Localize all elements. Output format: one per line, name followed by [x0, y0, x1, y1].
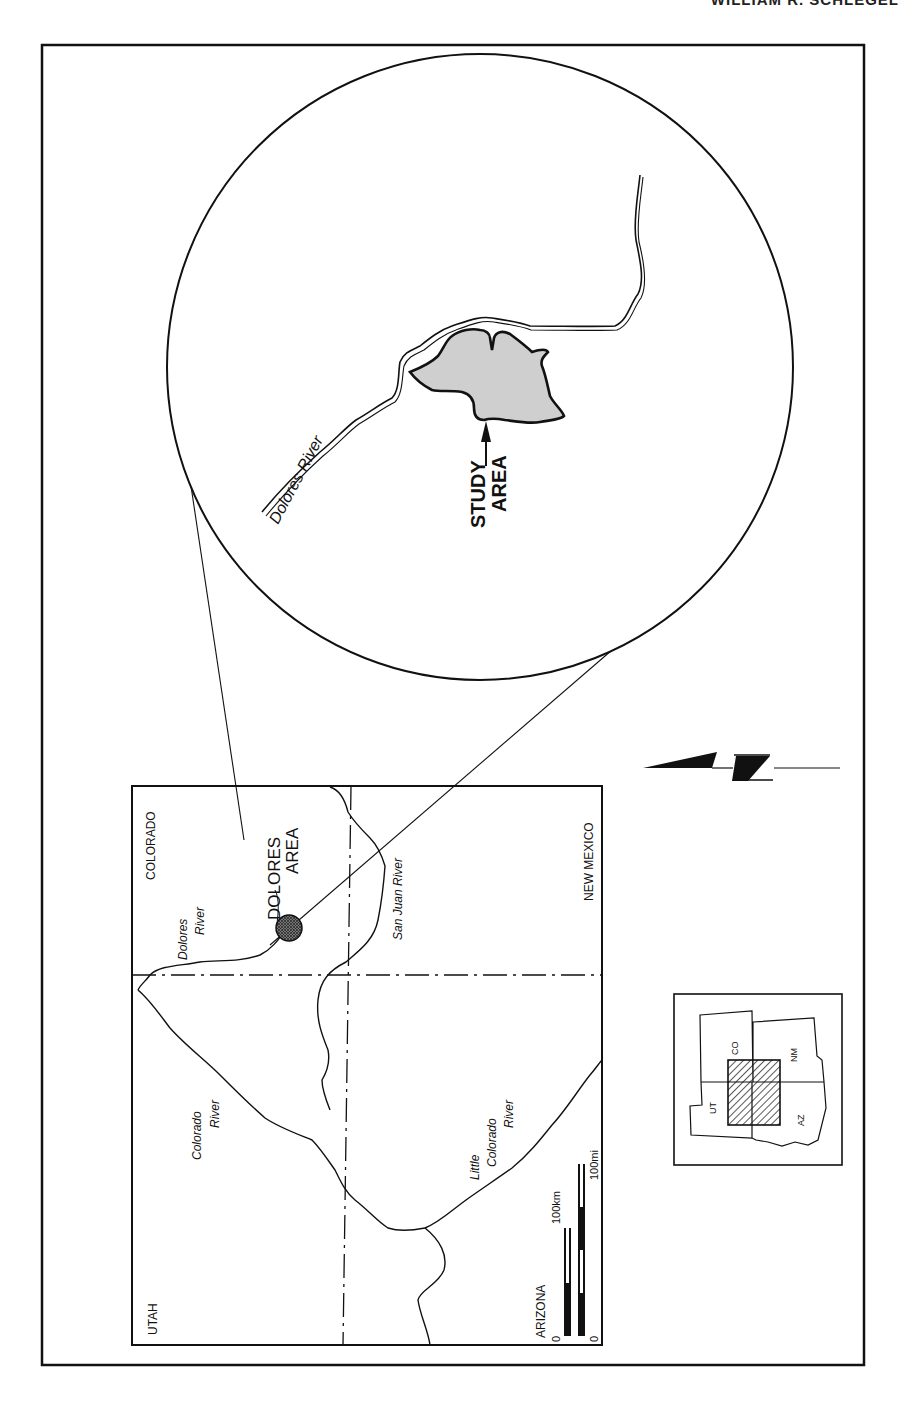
- scale-mi-label: 100mi: [588, 1150, 600, 1180]
- little-colorado-river-label-line2: Colorado: [485, 1118, 499, 1167]
- locator-label-ut: UT: [708, 1102, 718, 1114]
- colorado-river-lower: [418, 1228, 445, 1345]
- locator-label-az: AZ: [796, 1114, 806, 1126]
- locator-label-nm: NM: [789, 1048, 799, 1062]
- scale-km-zero: 0: [550, 1336, 562, 1342]
- enlarged-view: Dolores River STUDY AREA: [167, 54, 793, 680]
- little-colorado-river-label-line1: Little: [468, 1154, 482, 1180]
- little-colorado-river: [425, 1060, 602, 1228]
- little-colorado-river-label-line3: River: [502, 1099, 516, 1128]
- dolores-area-label-line2: AREA: [283, 827, 302, 874]
- state-label-new-mexico: NEW MEXICO: [582, 822, 596, 901]
- colorado-river-label-line2: River: [208, 1099, 222, 1128]
- figure-map: Dolores River STUDY AREA COLORADO UTAH A…: [0, 0, 917, 1409]
- dolores-river-regional: [138, 928, 285, 990]
- locator-hatched-region: [728, 1060, 780, 1125]
- regional-map-frame: [132, 786, 602, 1345]
- state-border-vertical: [343, 786, 351, 1345]
- dolores-river-label-regional-line1: Dolores: [176, 919, 190, 960]
- san-juan-river-label: San Juan River: [391, 857, 405, 940]
- study-area-label-line2: AREA: [488, 455, 510, 512]
- state-label-arizona: ARIZONA: [534, 1285, 548, 1338]
- north-arrow-icon: [643, 752, 840, 781]
- dolores-area-label-line1: DOLORES: [265, 837, 284, 920]
- locator-map: CO NM UT AZ: [674, 994, 842, 1165]
- state-label-colorado: COLORADO: [144, 811, 158, 880]
- dolores-river-label-regional-line2: River: [193, 906, 207, 935]
- san-juan-river: [318, 787, 385, 1110]
- scale-km-label: 100km: [550, 1191, 562, 1224]
- study-area-label-line1: STUDY: [467, 460, 489, 528]
- scale-mi-zero: 0: [588, 1336, 600, 1342]
- colorado-river: [138, 990, 425, 1230]
- state-label-utah: UTAH: [146, 1303, 160, 1335]
- colorado-river-label-line1: Colorado: [190, 1111, 204, 1160]
- scale-bar: [564, 1164, 585, 1336]
- regional-map: COLORADO UTAH ARIZONA NEW MEXICO Dolores…: [132, 786, 602, 1345]
- locator-label-co: CO: [730, 1042, 740, 1056]
